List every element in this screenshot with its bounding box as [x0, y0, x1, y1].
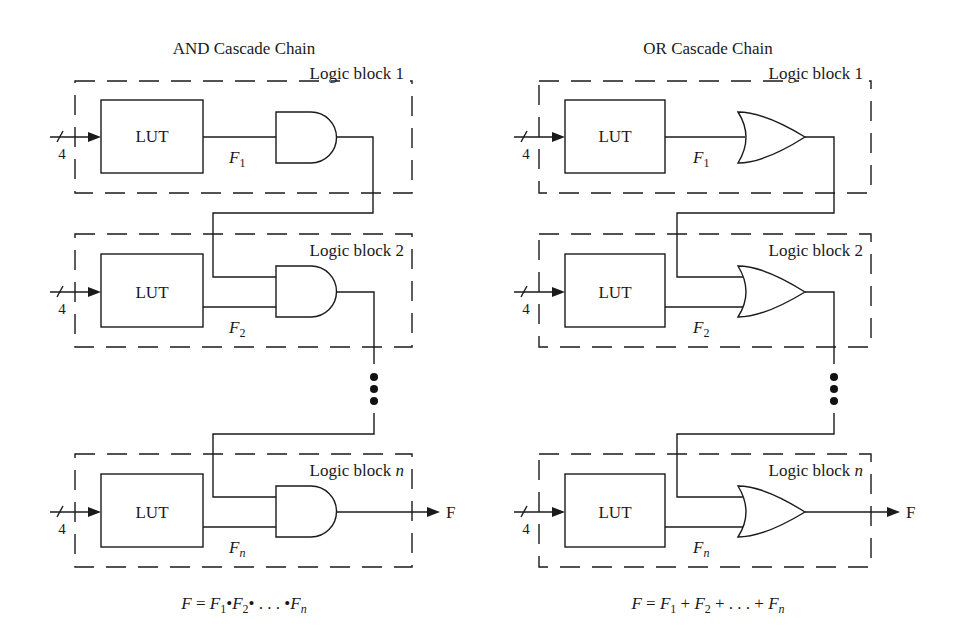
lut-label: LUT	[135, 283, 169, 302]
or-equation: F = F1 + F2 + . . . + Fn	[630, 594, 784, 616]
output-label: F	[906, 503, 915, 522]
logic-block-label: Logic block 1	[769, 64, 863, 83]
or-gate-icon	[738, 266, 805, 317]
ellipsis-dot	[830, 385, 838, 393]
logic-block-label: Logic block 2	[769, 241, 863, 260]
and-logic-block-2: Logic block 2 4 LUT F2	[50, 234, 412, 347]
arrow-right-icon	[552, 287, 565, 297]
lut-label: LUT	[135, 127, 169, 146]
cascade-wire	[805, 292, 834, 364]
or-cascade-chain: OR Cascade Chain Logic block 1 4 LUT F1 …	[514, 39, 915, 616]
cascade-wire	[337, 292, 374, 364]
and-chain-title: AND Cascade Chain	[173, 39, 316, 58]
bus-width-label: 4	[58, 521, 66, 537]
or-gate-icon	[738, 112, 805, 163]
and-gate-icon	[276, 486, 337, 537]
arrow-right-icon	[552, 132, 565, 142]
or-gate-icon	[738, 486, 805, 537]
logic-block-label: Logic block n	[769, 461, 863, 480]
arrow-right-icon	[88, 287, 101, 297]
cascade-chain-figure: AND Cascade Chain Logic block 1 4 LUT F1…	[0, 0, 958, 642]
bus-width-label: 4	[522, 301, 530, 317]
and-logic-block-1: Logic block 1 4 LUT F1	[50, 64, 412, 193]
signal-label: Fn	[228, 538, 245, 560]
arrow-right-icon	[88, 507, 101, 517]
or-chain-title: OR Cascade Chain	[643, 39, 773, 58]
or-logic-block-n: Logic block n 4 LUT Fn F	[514, 454, 915, 567]
output-label: F	[446, 503, 455, 522]
arrow-right-icon	[552, 507, 565, 517]
signal-label: Fn	[692, 538, 709, 560]
and-gate-icon	[276, 112, 337, 163]
bus-width-label: 4	[58, 146, 66, 162]
and-equation: F = F1•F2• . . . •Fn	[180, 594, 306, 616]
ellipsis-dot	[370, 385, 378, 393]
signal-label: F2	[228, 318, 245, 340]
bus-width-label: 4	[522, 146, 530, 162]
and-gate-icon	[276, 266, 337, 317]
cascade-wire	[213, 413, 374, 497]
ellipsis-dot	[830, 373, 838, 381]
lut-label: LUT	[598, 283, 632, 302]
logic-block-label: Logic block 1	[310, 64, 404, 83]
signal-label: F2	[692, 318, 709, 340]
cascade-wire	[677, 413, 834, 497]
arrow-right-icon	[887, 507, 900, 517]
bus-width-label: 4	[522, 521, 530, 537]
arrow-right-icon	[427, 507, 440, 517]
arrow-right-icon	[88, 132, 101, 142]
signal-label: F1	[692, 148, 709, 170]
logic-block-label: Logic block 2	[310, 241, 404, 260]
lut-label: LUT	[598, 127, 632, 146]
and-cascade-chain: AND Cascade Chain Logic block 1 4 LUT F1…	[50, 39, 455, 616]
lut-label: LUT	[135, 503, 169, 522]
signal-label: F1	[228, 148, 245, 170]
ellipsis-dot	[830, 397, 838, 405]
logic-block-label: Logic block n	[310, 461, 404, 480]
or-logic-block-2: Logic block 2 4 LUT F2	[514, 234, 871, 347]
or-logic-block-1: Logic block 1 4 LUT F1	[514, 64, 871, 193]
lut-label: LUT	[598, 503, 632, 522]
bus-width-label: 4	[58, 301, 66, 317]
ellipsis-dot	[370, 397, 378, 405]
and-logic-block-n: Logic block n 4 LUT Fn F	[50, 454, 455, 567]
ellipsis-dot	[370, 373, 378, 381]
